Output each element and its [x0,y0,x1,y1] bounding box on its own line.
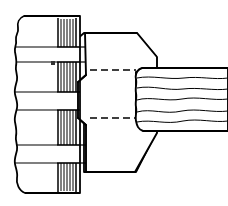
technical-drawing-figure: Technical Line Drawing [0,0,228,206]
hatch-segment-top [58,18,76,47]
hatch-segment-upper-mid [58,62,76,92]
small-reference-mark [51,61,55,65]
right-wavy-textured-block [136,68,228,131]
hatch-segment-bottom [58,163,76,192]
hatch-segment-lower-mid [58,110,76,145]
drawing-canvas [0,0,228,206]
